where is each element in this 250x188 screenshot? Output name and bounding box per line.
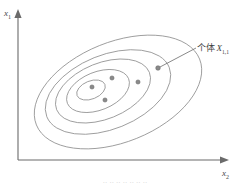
data-point[interactable] [110,76,114,80]
data-point-annotated[interactable] [156,66,161,71]
annotation-label-subscript: 1,1 [222,49,229,55]
data-point[interactable] [103,98,107,102]
annotation-label-text: 个体 [197,42,215,53]
contour-ellipse-2 [33,33,183,151]
annotation-leader-line [160,48,196,67]
data-point[interactable] [136,80,140,84]
axes-group [14,9,229,164]
partial-caption: ·· ·· ·· ·· ·· ·· ·· [0,179,250,188]
vertical-axis-arrowhead [14,9,21,18]
x-axis-label: x2 [221,168,229,180]
contour-ellipses-group [18,13,219,172]
annotation-label: 个体X1,1 [197,42,229,55]
scatter-contour-figure: x1 x2 个体X1,1 [0,0,250,188]
contour-ellipse-3 [46,46,160,135]
data-point[interactable] [90,85,94,89]
contour-ellipse-1 [18,13,219,172]
horizontal-axis-arrowhead [220,156,229,163]
y-axis-label: x1 [3,8,11,20]
